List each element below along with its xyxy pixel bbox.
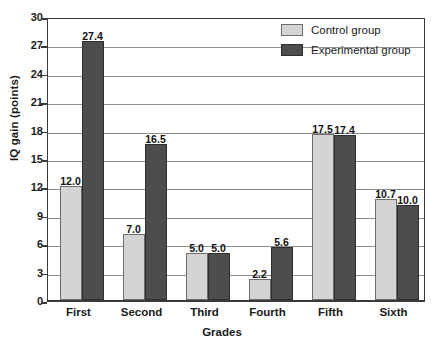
bar-third-experimental [208, 253, 230, 300]
bar-value-label: 5.6 [265, 237, 299, 248]
bar-value-label: 5.0 [202, 243, 236, 254]
x-axis-tick-label: Fifth [299, 306, 362, 318]
bar-second-experimental [145, 144, 167, 300]
x-axis-tick-label: Third [173, 306, 236, 318]
legend-item-experimental: Experimental group [281, 43, 421, 57]
bar-first-control [60, 186, 82, 300]
bar-sixth-experimental [397, 205, 419, 300]
bar-sixth-control [375, 199, 397, 300]
bar-value-label: 27.4 [76, 31, 110, 42]
bar-fourth-experimental [271, 247, 293, 300]
bar-value-label: 10.0 [391, 195, 425, 206]
gridline [48, 218, 424, 219]
y-axis-tick-label: 9 [17, 211, 43, 222]
y-axis-tick-label: 6 [17, 239, 43, 250]
y-axis-label: IQ gain (points) [8, 38, 20, 198]
y-axis-tick-label: 3 [17, 268, 43, 279]
y-axis-tick-label: 27 [17, 40, 43, 51]
x-axis-tick-label: First [47, 306, 110, 318]
gridline [48, 161, 424, 162]
legend-swatch-control-icon [281, 24, 303, 36]
gridline [48, 76, 424, 77]
x-axis-tick-label: Sixth [362, 306, 425, 318]
bar-second-control [123, 234, 145, 300]
x-axis-tick-label: Second [110, 306, 173, 318]
bar-fifth-experimental [334, 135, 356, 300]
bar-first-experimental [82, 41, 104, 300]
y-axis-tick-label: 12 [17, 182, 43, 193]
bar-fifth-control [312, 134, 334, 300]
y-axis-tick-label: 30 [17, 12, 43, 23]
legend-label-control: Control group [311, 24, 381, 36]
x-axis-tick-label: Fourth [236, 306, 299, 318]
legend-swatch-experimental-icon [281, 44, 303, 56]
y-axis-tick-label: 24 [17, 69, 43, 80]
y-axis-tick-label: 21 [17, 97, 43, 108]
gridline [48, 275, 424, 276]
y-axis-tick-label: 0 [17, 296, 43, 307]
bar-fourth-control [249, 279, 271, 300]
bar-value-label: 17.4 [328, 125, 362, 136]
gridline [48, 246, 424, 247]
bar-value-label: 16.5 [139, 134, 173, 145]
legend-item-control: Control group [281, 23, 421, 37]
legend-label-experimental: Experimental group [311, 44, 411, 56]
y-axis-tick-label: 15 [17, 154, 43, 165]
bar-third-control [186, 253, 208, 300]
y-axis-tick-mark [41, 302, 47, 304]
gridline [48, 104, 424, 105]
gridline [48, 133, 424, 134]
x-axis-label: Grades [0, 326, 444, 338]
legend: Control group Experimental group [281, 23, 421, 63]
y-axis-tick-label: 18 [17, 126, 43, 137]
bar-chart: IQ gain (points) 036912151821242730 12.0… [0, 0, 444, 343]
